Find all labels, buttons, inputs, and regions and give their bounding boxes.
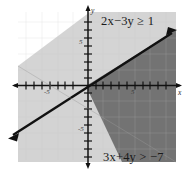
x-tick-label-negative-five: -5 [44,88,50,96]
graph-screenshot: 2x−3y ≥ 1 3x+4y > −7 y x -5 5 5 -5 [0,0,193,171]
inequality-graph [0,0,193,171]
inequality-label-top: 2x−3y ≥ 1 [101,14,154,29]
x-axis-label: x [178,88,181,97]
x-tick-label-positive-five: 5 [131,88,135,96]
y-axis-label: y [91,6,94,15]
y-tick-label-positive-five: 5 [79,38,83,46]
y-tick-label-negative-five: -5 [78,125,84,133]
inequality-label-bottom: 3x+4y > −7 [103,150,164,165]
